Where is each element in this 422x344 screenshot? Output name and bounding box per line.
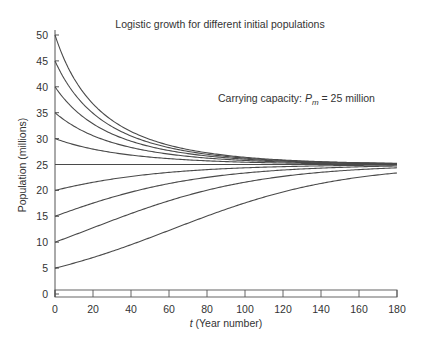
curve-p0-45 [55, 61, 397, 164]
x-tick-label: 180 [388, 303, 406, 315]
annotation-symbol: P [305, 92, 312, 104]
curve-p0-20 [55, 165, 397, 190]
y-tick-label: 0 [42, 288, 48, 300]
y-tick-label: 35 [36, 107, 48, 119]
chart-title: Logistic growth for different initial po… [115, 18, 324, 30]
x-tick-label: 60 [163, 303, 175, 315]
axes: 0510152025303540455002040608010012014016… [36, 29, 406, 315]
x-tick-label: 20 [87, 303, 99, 315]
x-axis-label: t (Year number) [190, 317, 263, 329]
logistic-growth-chart: Logistic growth for different initial po… [0, 0, 422, 344]
annotation-suffix: = 25 million [319, 92, 375, 104]
y-tick-label: 20 [36, 184, 48, 196]
y-tick-label: 10 [36, 236, 48, 248]
carrying-capacity-annotation: Carrying capacity: Pm = 25 million [218, 92, 375, 107]
curve-p0-5 [55, 173, 397, 268]
annotation-prefix: Carrying capacity: [218, 92, 305, 104]
curves [55, 35, 397, 268]
y-axis-label: Population (millions) [16, 118, 28, 213]
x-tick-label: 0 [52, 303, 58, 315]
y-tick-label: 40 [36, 81, 48, 93]
y-tick-label: 15 [36, 210, 48, 222]
x-tick-label: 160 [350, 303, 368, 315]
y-tick-label: 45 [36, 55, 48, 67]
y-tick-label: 25 [36, 159, 48, 171]
x-tick-label: 120 [274, 303, 292, 315]
x-axis-label-text: (Year number) [193, 317, 263, 329]
x-tick-label: 140 [312, 303, 330, 315]
y-tick-label: 30 [36, 133, 48, 145]
x-tick-label: 40 [125, 303, 137, 315]
y-tick-label: 50 [36, 29, 48, 41]
x-axis-bar [55, 290, 397, 297]
y-tick-label: 5 [42, 262, 48, 274]
x-tick-label: 80 [201, 303, 213, 315]
curve-p0-30 [55, 139, 397, 165]
x-tick-label: 100 [236, 303, 254, 315]
